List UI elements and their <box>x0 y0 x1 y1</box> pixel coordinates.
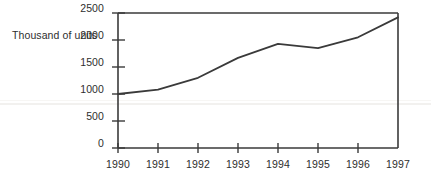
line-chart-figure: Thousand of units 0 500 1000 1500 2000 2… <box>0 0 431 188</box>
data-series-line <box>118 17 398 94</box>
plot-area <box>0 0 431 188</box>
axis-frame <box>118 13 398 148</box>
